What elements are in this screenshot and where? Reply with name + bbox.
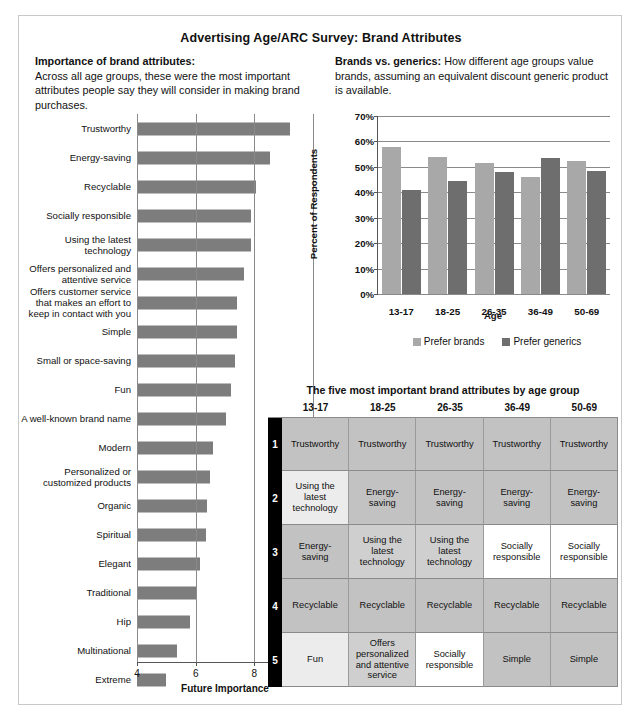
table-column-header: 50-69: [551, 402, 618, 417]
vbar-ytick-label: 0%: [360, 289, 374, 300]
vbar-legend: Prefer brandsPrefer generics: [377, 336, 617, 347]
infographic-frame: Advertising Age/ARC Survey: Brand Attrib…: [18, 15, 622, 705]
table-cell: Trustworthy: [484, 417, 551, 471]
hbar-bar: [137, 296, 237, 309]
hbar-row: Offers customer service that makes an ef…: [137, 288, 313, 317]
vbar-prefer-generics: [495, 172, 514, 294]
hbar-category-label: Personalized or customized products: [0, 465, 131, 488]
table-rank-cell: 5: [268, 633, 282, 687]
vbar-prefer-generics: [402, 190, 421, 294]
table-cell: Simple: [551, 633, 618, 687]
vbar-ytick-mark: [374, 167, 378, 168]
vbar-y-axis-title: Percent of Respondents: [308, 149, 319, 259]
top-attributes-table: The five most important brand attributes…: [268, 384, 618, 687]
table-cell: Using the latest technology: [416, 525, 483, 579]
vbar-plot-area: 0%10%20%30%40%50%60%70%13-1718-2526-3536…: [377, 116, 610, 295]
hbar-category-label: Energy-saving: [0, 152, 131, 163]
hbar-bar: [137, 383, 231, 396]
left-caption: Importance of brand attributes: Across a…: [35, 54, 325, 112]
left-caption-body: Across all age groups, these were the mo…: [35, 70, 300, 111]
table-cell: Socially responsible: [484, 525, 551, 579]
legend-swatch-icon: [413, 338, 421, 346]
vbar-group: [428, 116, 467, 294]
table-title: The five most important brand attributes…: [268, 384, 618, 396]
hbar-row: Simple: [137, 317, 313, 346]
vbar-ytick-mark: [374, 141, 378, 142]
vbar-group: [475, 116, 514, 294]
vbar-ytick-mark: [374, 116, 378, 117]
table-cell: Socially responsible: [416, 633, 483, 687]
table-rank-cell: 1: [268, 417, 282, 471]
hbar-bar: [137, 122, 290, 135]
table-cell: Trustworthy: [349, 417, 416, 471]
table-cell: Energy- saving: [551, 471, 618, 525]
vbar-prefer-generics: [448, 181, 467, 294]
table-cell: Trustworthy: [551, 417, 618, 471]
legend-item: Prefer brands: [413, 336, 485, 347]
hbar-category-label: Modern: [0, 442, 131, 453]
hbar-row: Socially responsible: [137, 201, 313, 230]
hbar-bar: [137, 412, 226, 425]
hbar-tick-label: 6: [193, 668, 199, 679]
table-cell: Energy- saving: [282, 525, 349, 579]
vbar-ytick-label: 40%: [355, 187, 374, 198]
vbar-group: [567, 116, 606, 294]
hbar-category-label: Extreme: [0, 674, 131, 685]
vbar-x-axis-title: Age: [377, 310, 609, 321]
vbar-prefer-generics: [541, 158, 560, 294]
hbar-category-label: Trustworthy: [0, 123, 131, 134]
table-cell: Trustworthy: [416, 417, 483, 471]
legend-swatch-icon: [502, 338, 510, 346]
hbar-tick-label: 8: [252, 668, 258, 679]
hbar-row: Energy-saving: [137, 143, 313, 172]
hbar-category-label: Spiritual: [0, 529, 131, 540]
table-grid: 13-1718-2526-3536-4950-691TrustworthyTru…: [268, 402, 618, 687]
hbar-bar: [137, 267, 244, 280]
hbar-gridline: [196, 114, 197, 662]
hbar-bar: [137, 499, 207, 512]
vbar-prefer-brands: [521, 177, 540, 294]
hbar-row: Offers personalized and attentive servic…: [137, 259, 313, 288]
vbar-prefer-brands: [428, 157, 447, 294]
hbar-category-label: Fun: [0, 384, 131, 395]
hbar-gridline: [254, 114, 255, 662]
table-cell: Using the latest technology: [282, 471, 349, 525]
hbar-tick-mark: [254, 662, 255, 666]
hbar-category-label: Socially responsible: [0, 210, 131, 221]
page-title: Advertising Age/ARC Survey: Brand Attrib…: [19, 31, 623, 45]
hbar-row: Trustworthy: [137, 114, 313, 143]
table-cell: Simple: [484, 633, 551, 687]
table-cell: Recyclable: [551, 579, 618, 633]
hbar-category-label: Elegant: [0, 558, 131, 569]
table-column-header: 26-35: [416, 402, 483, 417]
hbar-bar: [137, 209, 251, 222]
hbar-tick-label: 4: [134, 668, 140, 679]
table-cell: Offers personalized and attentive servic…: [349, 633, 416, 687]
legend-label: Prefer brands: [424, 336, 485, 347]
hbar-category-label: Small or space-saving: [0, 355, 131, 366]
hbar-category-label: Simple: [0, 326, 131, 337]
survey-infographic: Advertising Age/ARC Survey: Brand Attrib…: [0, 0, 641, 720]
hbar-bar: [137, 557, 200, 570]
vbar-ytick-mark: [374, 294, 378, 295]
hbar-category-label: Offers customer service that makes an ef…: [0, 285, 131, 319]
table-cell: Energy- saving: [416, 471, 483, 525]
table-column-header: 18-25: [349, 402, 416, 417]
vbar-ytick-label: 20%: [355, 238, 374, 249]
table-cell: Energy- saving: [484, 471, 551, 525]
table-column-header: 36-49: [484, 402, 551, 417]
table-cell: Socially responsible: [551, 525, 618, 579]
brands-vs-generics-chart: Percent of Respondents 0%10%20%30%40%50%…: [335, 108, 621, 348]
vbar-ytick-label: 70%: [355, 111, 374, 122]
table-header-spacer: [268, 402, 282, 417]
vbar-ytick-mark: [374, 192, 378, 193]
hbar-bar: [137, 615, 190, 628]
hbar-category-label: Hip: [0, 616, 131, 627]
table-cell: Recyclable: [349, 579, 416, 633]
right-caption: Brands vs. generics: How different age g…: [335, 54, 615, 98]
hbar-category-label: Offers personalized and attentive servic…: [0, 262, 131, 285]
hbar-category-label: Recyclable: [0, 181, 131, 192]
vbar-group: [521, 116, 560, 294]
table-cell: Trustworthy: [282, 417, 349, 471]
hbar-bar: [137, 470, 210, 483]
